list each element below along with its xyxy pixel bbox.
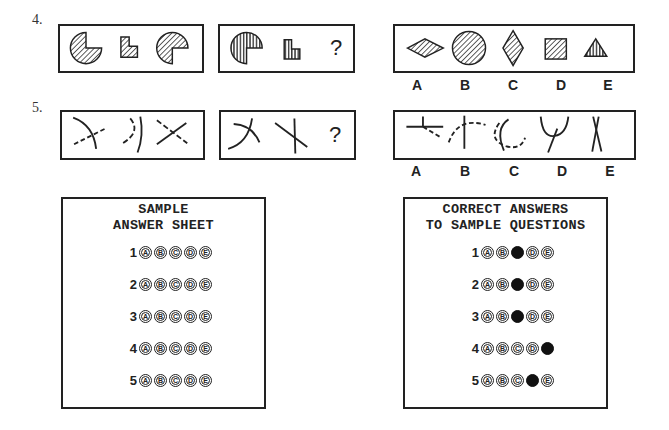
bubble-a[interactable]: A [139,278,152,291]
bubble-e[interactable]: E [199,342,212,355]
bubble-c[interactable]: C [169,246,182,259]
row-number: 1 [127,245,137,260]
q5-problem-figures [62,112,203,158]
sample-sheet-title-line2: ANSWER SHEET [63,218,264,234]
bubble-d[interactable]: D [184,310,197,323]
row-number: 4 [469,341,479,356]
row-number: 4 [127,341,137,356]
answer-row-5: 5ABCDE [469,372,556,388]
bubble-d[interactable]: D [526,310,539,323]
answer-row-2: 2ABCDE [469,276,556,292]
bubble-a[interactable]: A [139,374,152,387]
bubble-c-filled[interactable]: C [511,246,524,259]
bubble-b[interactable]: B [154,246,167,259]
answer-row-2: 2ABCDE [127,276,214,292]
option-b-circle-icon [452,32,485,65]
option-a-dashed-line [423,127,441,138]
bubble-b[interactable]: B [496,374,509,387]
arc-icon [138,117,142,153]
option-d-square-icon [545,39,566,59]
bubble-a[interactable]: A [481,310,494,323]
bubble-a[interactable]: A [139,246,152,259]
bubble-c[interactable]: C [169,374,182,387]
q4-option-a-label: A [407,77,427,93]
bubble-b[interactable]: B [154,342,167,355]
bubble-e[interactable]: E [199,374,212,387]
bubble-c-filled[interactable]: C [511,278,524,291]
bubble-a[interactable]: A [481,374,494,387]
pie-vertical-hatch-icon [231,32,262,63]
bubble-e[interactable]: E [541,374,554,387]
option-e-triangle-icon [585,39,607,56]
bubble-d[interactable]: D [184,246,197,259]
bubble-c[interactable]: C [511,374,524,387]
question-number-5: 5. [32,100,43,116]
correct-answers-sheet: CORRECT ANSWERS TO SAMPLE QUESTIONS 1ABC… [403,197,608,409]
bubble-b[interactable]: B [496,246,509,259]
bubble-d[interactable]: D [184,278,197,291]
solid-line-icon [157,123,186,144]
bubble-a[interactable]: A [139,310,152,323]
bubble-e[interactable]: E [541,278,554,291]
option-c-diamond-icon [503,31,523,66]
sample-sheet-title-line1: SAMPLE [63,202,264,218]
bubble-c[interactable]: C [169,310,182,323]
l-shape-icon [121,37,138,57]
sample-answer-sheet: SAMPLE ANSWER SHEET 1ABCDE2ABCDE3ABCDE4A… [61,197,266,409]
answer-row-4: 4ABCDE [469,340,556,356]
bubble-a[interactable]: A [139,342,152,355]
bubble-b[interactable]: B [496,278,509,291]
option-c-dashed-circle [495,123,525,147]
q5-option-e-label: E [600,163,620,179]
bubble-c[interactable]: C [169,278,182,291]
q4-options-box [393,24,635,73]
bubble-a[interactable]: A [481,342,494,355]
q4-option-d-label: D [551,77,571,93]
answer-row-4: 4ABCDE [127,340,214,356]
bubble-d[interactable]: D [184,374,197,387]
bubble-b[interactable]: B [154,374,167,387]
bubble-b[interactable]: B [154,278,167,291]
q4-option-figures [395,26,633,71]
bubble-d[interactable]: D [526,278,539,291]
option-b-dashed-arc [449,123,486,142]
row-number: 3 [127,309,137,324]
q5-problem-box [60,110,205,160]
q4-problem-figures [60,26,202,71]
bubble-b[interactable]: B [496,310,509,323]
solid-line-icon [275,123,307,147]
q5-option-d-label: D [552,163,572,179]
option-d-arc [541,117,569,136]
bubble-a[interactable]: A [481,278,494,291]
row-number: 5 [127,373,137,388]
q4-option-e-label: E [598,77,618,93]
bubble-d[interactable]: D [184,342,197,355]
bubble-e[interactable]: E [199,310,212,323]
arc-icon [73,118,96,149]
bubble-c[interactable]: C [511,342,524,355]
q4-option-b-label: B [455,77,475,93]
solid-line-icon [294,118,295,153]
option-a-diamond-icon [407,39,443,57]
bubble-e[interactable]: E [541,246,554,259]
bubble-c-filled[interactable]: C [511,310,524,323]
bubble-b[interactable]: B [496,342,509,355]
row-number: 3 [469,309,479,324]
bubble-e[interactable]: E [541,310,554,323]
bubble-c[interactable]: C [169,342,182,355]
question-number-4: 4. [32,12,43,28]
q5-analogy-box: ? [219,110,356,160]
answer-row-5: 5ABCDE [127,372,214,388]
bubble-e-filled[interactable]: E [541,342,554,355]
row-number: 2 [469,277,479,292]
bubble-d-filled[interactable]: D [526,374,539,387]
bubble-b[interactable]: B [154,310,167,323]
answer-row-1: 1ABCDE [127,244,214,260]
bubble-d[interactable]: D [526,342,539,355]
bubble-d[interactable]: D [526,246,539,259]
bubble-e[interactable]: E [199,278,212,291]
pie-rotated-icon [157,32,188,63]
pie-shape-icon [70,32,101,63]
bubble-e[interactable]: E [199,246,212,259]
bubble-a[interactable]: A [481,246,494,259]
